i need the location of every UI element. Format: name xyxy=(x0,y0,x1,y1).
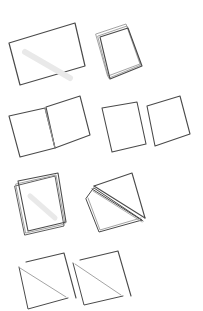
fold-step-6: Stack folded along the diagonal xyxy=(86,173,145,232)
fold-step-4: Sheet cut into two squares xyxy=(102,96,190,152)
fold-line xyxy=(75,264,121,295)
fold-line xyxy=(92,189,143,221)
paper-outline xyxy=(102,102,146,152)
paper-shading xyxy=(25,52,70,78)
paper-outline xyxy=(9,23,85,85)
fold-line xyxy=(93,191,142,222)
paper-outline xyxy=(26,253,76,298)
fold-step-2: Sheet folded in half (card) xyxy=(96,24,142,79)
fold-step-5: Squares stacked xyxy=(15,173,66,235)
diagram-canvas: Flat rectangular sheetSheet folded in ha… xyxy=(0,0,203,311)
paper-outline xyxy=(98,26,141,78)
paper-shading xyxy=(30,196,55,218)
fold-step-7: Squares cut into triangles xyxy=(19,251,131,309)
paper-outline xyxy=(19,267,68,309)
fold-step-3: Sheet opened like a book xyxy=(9,96,90,157)
paper-outline xyxy=(86,188,142,232)
folding-diagram: Paper folding steps Flat rectangular she… xyxy=(0,0,203,311)
paper-outline xyxy=(147,96,190,146)
fold-line xyxy=(45,108,55,148)
paper-outline xyxy=(80,251,131,296)
fold-step-1: Flat rectangular sheet xyxy=(9,23,85,85)
fold-line xyxy=(20,268,66,297)
paper-outline xyxy=(73,263,123,305)
